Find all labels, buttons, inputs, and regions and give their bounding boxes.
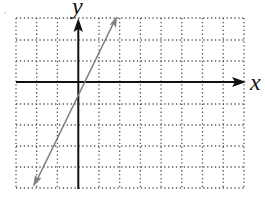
x-axis — [16, 77, 246, 87]
x-axis-label: x — [249, 69, 261, 95]
y-axis-label: y — [70, 0, 83, 19]
grid — [16, 18, 244, 188]
plotted-line — [33, 16, 117, 187]
line-arrow-bottom-icon — [33, 175, 42, 187]
coordinate-graph: x y — [0, 0, 265, 202]
corner-mark — [4, 12, 6, 14]
